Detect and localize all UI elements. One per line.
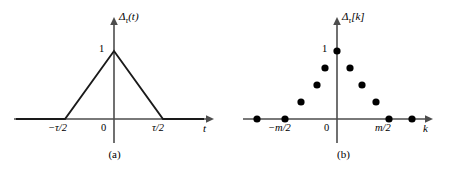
x-axis-label-a: t — [203, 122, 206, 134]
data-point — [372, 98, 379, 105]
x-axis-label-b: k — [423, 122, 428, 134]
panel-b-caption: (b) — [229, 148, 458, 160]
data-point — [297, 98, 304, 105]
y-axis-label-b-argument: [k] — [351, 10, 364, 22]
y-axis-label-a-argument: (t) — [128, 10, 138, 22]
data-point — [346, 64, 353, 71]
data-point — [313, 81, 320, 88]
x-tick-label-a-pos-tau-half: τ/2 — [152, 122, 164, 133]
data-point — [358, 81, 365, 88]
x-tick-label-b-zero: 0 — [324, 122, 329, 133]
x-tick-label-b-neg-m-half: −m/2 — [268, 122, 291, 133]
figure-two-panel: 1 Δτ(t) t −τ/2 0 τ/2 (a) — [0, 0, 458, 174]
triangle-waveform — [16, 51, 204, 119]
x-axis-arrowhead-a — [206, 115, 214, 123]
y-axis-label-a: Δτ(t) — [119, 10, 139, 25]
panel-b: 1 Δτ[k] k −m/2 0 m/2 (b) — [229, 0, 458, 174]
y-axis-arrowhead-b — [333, 17, 341, 25]
data-point — [253, 115, 260, 122]
data-point-peak — [333, 47, 340, 54]
y-tick-label-b: 1 — [322, 43, 327, 54]
y-axis-arrowhead-a — [110, 17, 118, 25]
data-point — [408, 115, 415, 122]
y-axis-label-b: Δτ[k] — [342, 10, 365, 25]
x-tick-label-b-pos-m-half: m/2 — [375, 122, 391, 133]
data-point — [321, 64, 328, 71]
y-tick-label-a: 1 — [99, 43, 104, 54]
x-tick-label-a-zero: 0 — [101, 122, 106, 133]
panel-a: 1 Δτ(t) t −τ/2 0 τ/2 (a) — [0, 0, 229, 174]
panel-a-caption: (a) — [0, 148, 229, 160]
x-tick-label-a-neg-tau-half: −τ/2 — [48, 122, 67, 133]
